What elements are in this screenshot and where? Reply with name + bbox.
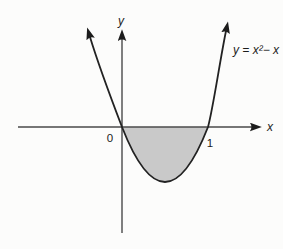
y-axis-label: y (117, 14, 125, 28)
x-intercept-tick-label: 1 (207, 137, 213, 149)
x-axis-label: x (266, 120, 274, 134)
equation-label: y = x²− x (232, 43, 280, 57)
origin-tick-label: 0 (107, 132, 113, 144)
graph-canvas: y x 0 1 y = x²− x (0, 0, 283, 249)
parabola-figure: y x 0 1 y = x²− x (0, 0, 283, 249)
